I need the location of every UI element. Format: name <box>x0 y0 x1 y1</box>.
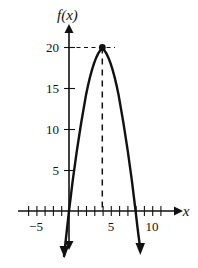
x-axis <box>18 207 183 216</box>
x-tick-label-10: 10 <box>146 219 159 234</box>
parabola-plot: 20 15 10 5 −5 5 10 f(x) x <box>0 0 198 268</box>
curve-left-arrow <box>60 246 70 258</box>
x-tick-label-neg5: −5 <box>29 219 43 234</box>
y-tick-label-5: 5 <box>53 163 60 178</box>
x-axis-label: x <box>182 203 190 219</box>
y-tick-label-15: 15 <box>46 81 59 96</box>
y-axis-label: f(x) <box>57 7 78 24</box>
y-tick-label-20: 20 <box>46 40 59 55</box>
y-tick-label-10: 10 <box>46 122 59 137</box>
graph-figure: 20 15 10 5 −5 5 10 f(x) x <box>0 0 198 268</box>
vertex-dot <box>99 44 106 51</box>
curve-right-arrow <box>136 243 146 255</box>
x-tick-label-5: 5 <box>108 219 115 234</box>
